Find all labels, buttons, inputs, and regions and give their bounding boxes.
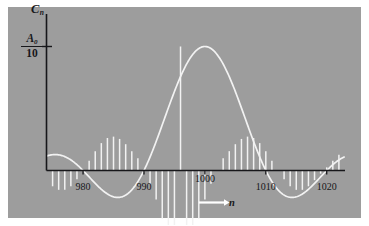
y-tick-denominator: 10 (19, 47, 45, 60)
x-axis-tick-label: 1010 (256, 181, 276, 192)
x-axis-tick-label: 980 (76, 181, 91, 192)
y-axis-tick-label: A0 10 (19, 33, 45, 60)
figure-container: Cn A0 10 980990100010101020 n (0, 0, 369, 225)
x-axis-tick-label: 1020 (317, 181, 337, 192)
spectrum-plot (0, 0, 369, 225)
x-axis-tick-label: 990 (136, 181, 151, 192)
x-axis-tick-label: 1000 (195, 173, 215, 184)
y-axis-label: Cn (31, 2, 44, 17)
y-tick-numerator: A0 (19, 33, 45, 46)
x-axis-label: n (229, 197, 235, 208)
n-axis-arrow-group (199, 199, 230, 206)
axes-group (42, 14, 345, 171)
stem-lines-group (53, 47, 339, 226)
